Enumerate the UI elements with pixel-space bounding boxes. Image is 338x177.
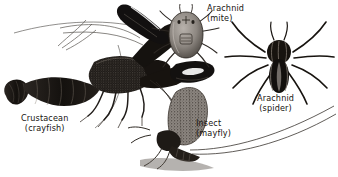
label-example-crayfish: (crayfish) xyxy=(21,124,68,134)
crayfish-tail-fan xyxy=(4,79,28,104)
label-example-spider: (spider) xyxy=(257,104,294,114)
label-example-mite: (mite) xyxy=(207,14,244,24)
label-example-mayfly: (mayfly) xyxy=(196,129,231,139)
plate-artwork xyxy=(0,0,338,177)
label-group-arachnid-spider: Arachnid xyxy=(257,93,294,103)
label-group-insect: Insect xyxy=(196,118,221,128)
mayfly-ground-shadow xyxy=(140,158,214,171)
crayfish-abdomen xyxy=(24,77,100,106)
label-group-crustacean: Crustacean xyxy=(21,113,68,123)
label-arachnid-mite: Arachnid (mite) xyxy=(207,4,244,23)
label-insect-mayfly: Insect (mayfly) xyxy=(196,119,231,138)
figure-spider xyxy=(225,22,334,104)
label-crustacean-crayfish: Crustacean (crayfish) xyxy=(21,114,68,133)
label-group-arachnid-mite: Arachnid xyxy=(207,3,244,13)
illustration-plate: Crustacean (crayfish) Arachnid (mite) Ar… xyxy=(0,0,338,177)
label-arachnid-spider: Arachnid (spider) xyxy=(257,94,294,113)
